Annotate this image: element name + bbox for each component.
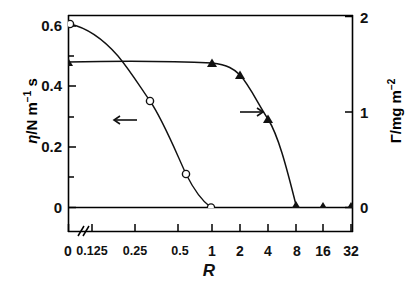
marker-triangle <box>263 115 273 124</box>
series-eta-line <box>70 24 211 208</box>
right-arrow-annotation <box>240 108 263 116</box>
left-arrow-annotation <box>114 116 137 124</box>
marker-circle <box>146 97 153 104</box>
marker-triangle <box>347 202 355 209</box>
marker-circle <box>66 20 73 27</box>
plot-canvas <box>0 0 417 286</box>
marker-triangle <box>292 201 301 209</box>
marker-circle <box>207 204 214 211</box>
series-gamma <box>63 58 355 209</box>
series-gamma-line <box>68 61 296 205</box>
series-gamma-markers <box>63 58 355 209</box>
series-eta-markers <box>66 20 214 211</box>
figure-root: 0.6 0.4 0.2 0 2 1 0 0 0.125 0.25 0.5 1 2… <box>0 0 417 286</box>
series-eta <box>66 20 214 211</box>
marker-circle <box>182 170 189 177</box>
marker-triangle <box>319 202 327 209</box>
